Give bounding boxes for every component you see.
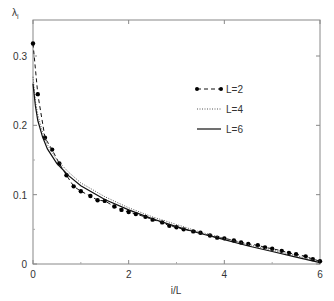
y-tick-label: 0.3 bbox=[13, 51, 27, 62]
legend-label: L=2 bbox=[226, 84, 243, 95]
axis-ticks: 024600.10.20.3 bbox=[13, 20, 323, 280]
data-point-marker bbox=[36, 92, 40, 96]
data-point-marker bbox=[71, 184, 75, 188]
x-axis-label: i/L bbox=[171, 285, 182, 296]
data-point-marker bbox=[31, 41, 35, 45]
data-point-marker bbox=[88, 194, 92, 198]
legend-label: L=6 bbox=[226, 124, 243, 135]
x-tick-label: 4 bbox=[222, 269, 228, 280]
y-tick-label: 0 bbox=[21, 259, 27, 270]
legend-label: L=4 bbox=[226, 104, 243, 115]
eigenvalue-chart: 024600.10.20.3 L=2L=4L=6 λi i/L bbox=[0, 0, 334, 301]
y-tick-label: 0.1 bbox=[13, 190, 27, 201]
data-point-marker bbox=[270, 247, 274, 251]
data-series bbox=[31, 41, 322, 263]
legend: L=2L=4L=6 bbox=[195, 84, 243, 135]
series-line-l6 bbox=[33, 84, 320, 263]
y-tick-label: 0.2 bbox=[13, 120, 27, 131]
data-point-marker bbox=[95, 198, 99, 202]
y-axis-label: λi bbox=[12, 7, 19, 20]
data-point-marker bbox=[119, 208, 123, 212]
data-point-marker bbox=[79, 189, 83, 193]
legend-marker bbox=[195, 87, 199, 91]
x-tick-label: 0 bbox=[30, 269, 36, 280]
x-tick-label: 6 bbox=[317, 269, 323, 280]
series-line-l4 bbox=[33, 77, 320, 261]
legend-marker bbox=[219, 87, 223, 91]
x-tick-label: 2 bbox=[126, 269, 132, 280]
